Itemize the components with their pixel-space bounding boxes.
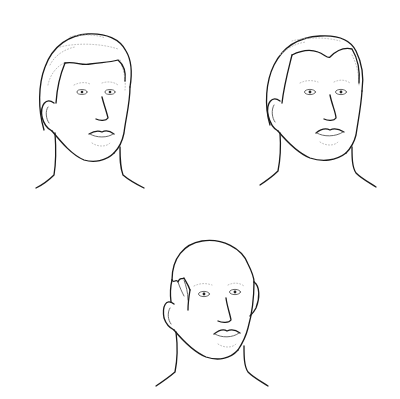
head-normal-hairline: Normal hairline [20,25,160,195]
head-drawing [130,210,280,399]
head-receding-hairline: Receding hairline [240,25,390,195]
head-drawing [20,25,160,195]
cropped-caption [10,0,180,4]
head-bald: Bald [130,210,280,399]
head-drawing [240,25,390,195]
